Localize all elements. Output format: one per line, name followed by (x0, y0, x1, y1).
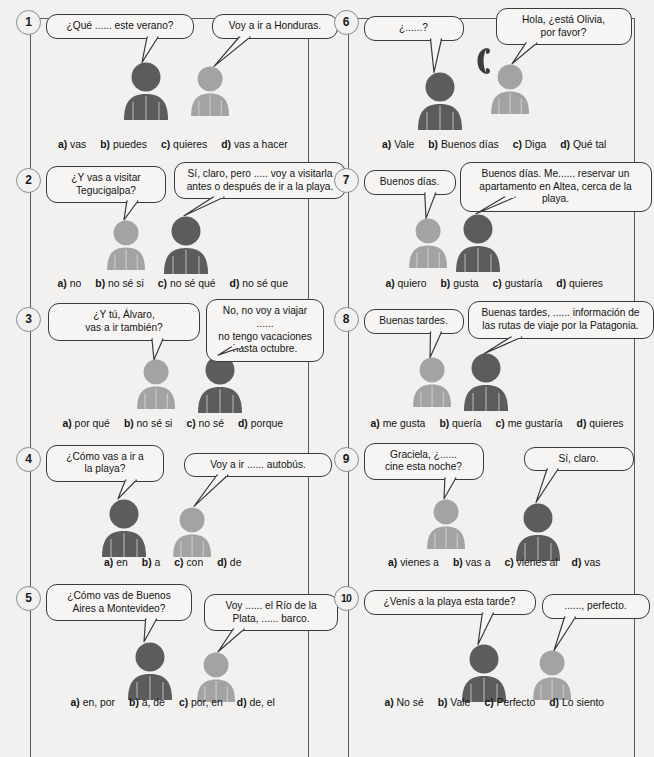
answer-option-text: gustaría (502, 278, 542, 289)
answer-option[interactable]: a) en (104, 557, 128, 568)
answer-option[interactable]: c) Perfecto (484, 697, 535, 708)
answer-option[interactable]: a) me gusta (371, 418, 426, 429)
answer-option-letter: a) (382, 139, 391, 150)
answer-option-text: Buenos días (438, 139, 499, 150)
answer-option-letter: a) (371, 418, 380, 429)
telephone-handset-icon (472, 46, 492, 80)
answer-option[interactable]: b) quería (439, 418, 481, 429)
answer-option-letter: d) (217, 557, 227, 568)
answer-option[interactable]: b) a, de (129, 697, 165, 708)
exercise-number-badge: 7 (334, 168, 359, 193)
person-figure-right (486, 64, 534, 118)
person-figure-left (118, 62, 174, 124)
answer-options-row: a) en, porb) a, dec) por, end) de, el (46, 697, 300, 708)
answer-option-text: por qué (72, 418, 110, 429)
answer-option[interactable]: d) porque (238, 418, 283, 429)
speech-bubble-left: ¿Venís a la playa esta tarde? (364, 590, 536, 615)
person-figure-left (412, 72, 468, 134)
answer-option-letter: c) (504, 557, 513, 568)
answer-option[interactable]: b) no sé si (95, 278, 144, 289)
answer-option-text: Vale (391, 139, 414, 150)
answer-option[interactable]: b) vas a (453, 557, 491, 568)
answer-option-letter: c) (493, 278, 502, 289)
answer-option[interactable]: d) Lo siento (549, 697, 604, 708)
answer-option[interactable]: d) vas (572, 557, 601, 568)
answer-option[interactable]: a) en, por (71, 697, 116, 708)
answer-option-text: quieres (586, 418, 623, 429)
answer-option-text: vienes al (514, 557, 558, 568)
answer-option[interactable]: d) no sé que (230, 278, 288, 289)
answer-option[interactable]: c) no sé (186, 418, 224, 429)
answer-option[interactable]: c) Diga (513, 139, 547, 150)
answer-option-text: puedes (110, 139, 147, 150)
answer-option[interactable]: a) por qué (62, 418, 109, 429)
answer-option[interactable]: a) Vale (382, 139, 414, 150)
worksheet-column-left: 1¿Qué ...... este verano?Voy a ir a Hond… (0, 0, 322, 753)
person-figure-right (450, 214, 506, 276)
answer-option[interactable]: a) quiero (385, 278, 426, 289)
answer-option[interactable]: b) puedes (100, 139, 147, 150)
answer-option[interactable]: d) quieres (577, 418, 624, 429)
answer-option[interactable]: d) vas a hacer (221, 139, 287, 150)
answer-option-letter: d) (560, 139, 570, 150)
speech-bubble-right: Voy ...... el Río de la Plata, ...... ba… (204, 594, 338, 631)
answer-option[interactable]: b) Vale (438, 697, 471, 708)
answer-option-letter: a) (62, 418, 71, 429)
answer-option-letter: c) (496, 418, 505, 429)
answer-option-letter: d) (230, 278, 240, 289)
answer-option[interactable]: a) vienes a (388, 557, 439, 568)
answer-option-letter: b) (142, 557, 152, 568)
answer-option[interactable]: c) gustaría (493, 278, 543, 289)
answer-option-text: a, de (139, 697, 165, 708)
answer-options-row: a) vasb) puedesc) quieresd) vas a hacer (46, 139, 300, 150)
answer-option-text: Vale (447, 697, 470, 708)
answer-option-letter: c) (174, 557, 183, 568)
answer-option[interactable]: b) a (142, 557, 160, 568)
answer-option-text: en (113, 557, 127, 568)
answer-option-letter: a) (71, 697, 80, 708)
answer-option-text: quieres (566, 278, 603, 289)
exercise-item: 10¿Venís a la playa esta tarde?......, p… (322, 576, 644, 715)
answer-option[interactable]: a) no (58, 278, 82, 289)
answer-option[interactable]: b) no sé si (124, 418, 173, 429)
answer-option[interactable]: c) vienes al (504, 557, 557, 568)
dialogue-scene: ¿Qué ...... este verano?Voy a ir a Hondu… (46, 0, 300, 158)
answer-option[interactable]: a) vas (58, 139, 86, 150)
speech-bubble-left: ¿Cómo vas a ir a la playa? (46, 445, 164, 482)
dialogue-scene: Graciela, ¿...... cine esta noche?Sí, cl… (364, 437, 626, 576)
answer-option[interactable]: c) no sé qué (158, 278, 216, 289)
person-figure-left (122, 642, 178, 704)
exercise-number-badge: 4 (16, 447, 41, 472)
answer-option[interactable]: d) Qué tal (560, 139, 606, 150)
answer-option[interactable]: c) con (174, 557, 203, 568)
answer-option[interactable]: b) gusta (440, 278, 478, 289)
answer-option[interactable]: a) No sé (384, 697, 423, 708)
answer-option-letter: d) (549, 697, 559, 708)
answer-option-letter: a) (385, 278, 394, 289)
answer-option[interactable]: b) Buenos días (428, 139, 498, 150)
answer-option-text: Lo siento (559, 697, 604, 708)
dialogue-scene: ¿Venís a la playa esta tarde?......, per… (364, 576, 626, 715)
answer-option-letter: b) (453, 557, 463, 568)
answer-option-letter: b) (438, 697, 448, 708)
answer-option-text: Qué tal (570, 139, 606, 150)
answer-option[interactable]: d) quieres (556, 278, 603, 289)
answer-option-text: No sé (394, 697, 424, 708)
answer-option[interactable]: c) quieres (161, 139, 207, 150)
answer-option[interactable]: d) de (217, 557, 241, 568)
answer-option-letter: a) (58, 278, 67, 289)
speech-bubble-left: ¿......? (364, 16, 464, 41)
speech-bubble-left: Buenas tardes. (364, 309, 464, 334)
answer-option-text: gusta (450, 278, 478, 289)
answer-option-text: vas (67, 139, 86, 150)
answer-option[interactable]: c) por, en (179, 697, 223, 708)
speech-bubble-left: Buenos días. (364, 170, 456, 195)
answer-option-text: me gusta (380, 418, 426, 429)
answer-option-letter: c) (186, 418, 195, 429)
answer-options-row: a) me gustab) queríac) me gustaríad) qui… (364, 418, 626, 429)
speech-bubble-left: ¿Qué ...... este verano? (46, 14, 194, 39)
answer-option[interactable]: d) de, el (237, 697, 275, 708)
dialogue-scene: ¿......?Hola, ¿está Olivia, por favor?a)… (364, 0, 626, 158)
exercise-number-badge: 10 (334, 586, 359, 611)
answer-option[interactable]: c) me gustaría (496, 418, 563, 429)
